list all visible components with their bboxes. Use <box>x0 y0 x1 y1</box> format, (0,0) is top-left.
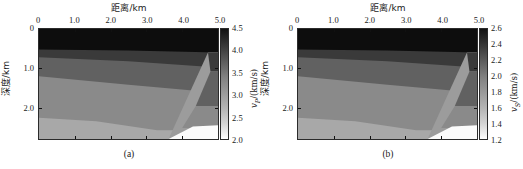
tick-top-b-1 <box>334 29 335 32</box>
tick-top-b-3 <box>405 29 406 32</box>
tick-left-a-2 <box>39 108 42 109</box>
tick-right-a-1 <box>215 68 218 69</box>
cbar-tick-a-4: 4.0 <box>232 45 243 55</box>
x-tick-b-4: 4.0 <box>437 15 448 26</box>
tick-bot-a-4 <box>182 136 183 139</box>
cbar-tick-a-3: 3.5 <box>232 68 243 78</box>
x-tick-labels-a: 0 1.0 2.0 3.0 4.0 5.0 <box>38 15 220 26</box>
cbar-tick-a-1: 2.5 <box>232 113 243 123</box>
colorbar-b <box>479 28 488 140</box>
tick-bot-a-2 <box>111 136 112 139</box>
cbar-symbol-b: v <box>509 107 519 112</box>
x-tick-a-2: 2.0 <box>105 15 116 26</box>
tick-top-b-4 <box>441 29 442 32</box>
y-tick-b-0: 0 <box>289 23 293 33</box>
x-tick-b-1: 1.0 <box>328 15 339 26</box>
cbar-units-a: /(km/s) <box>249 69 259 99</box>
x-tick-a-4: 4.0 <box>178 15 189 26</box>
x-tick-b-3: 3.0 <box>401 15 412 26</box>
cbar-tick-b-1: 1.4 <box>491 119 502 129</box>
vs-model-image <box>298 29 477 139</box>
y-tick-a-1: 1.0 <box>23 63 34 73</box>
tick-top-b-2 <box>370 29 371 32</box>
cbar-subscript-b: S <box>514 103 522 107</box>
x-tick-a-3: 3.0 <box>142 15 153 26</box>
cbar-tick-b-0: 1.2 <box>491 135 502 145</box>
tick-top-a-2 <box>111 29 112 32</box>
x-tick-a-5: 5.0 <box>215 15 226 26</box>
x-tick-a-1: 1.0 <box>69 15 80 26</box>
x-axis-title-a: 距离/km <box>38 3 220 14</box>
tick-bot-b-2 <box>370 136 371 139</box>
y-tick-labels-b: 0 1.0 2.0 <box>273 28 295 140</box>
cbar-tick-b-3: 1.8 <box>491 87 502 97</box>
y-tick-b-2: 2.0 <box>282 103 293 113</box>
cbar-tick-a-5: 4.5 <box>232 23 243 33</box>
tick-bot-a-3 <box>146 136 147 139</box>
cbar-tick-a-2: 3.0 <box>232 90 243 100</box>
cbar-symbol-a: v <box>249 103 259 108</box>
tick-top-a-4 <box>182 29 183 32</box>
tick-left-a-1 <box>39 68 42 69</box>
panel-a: 距离/km 0 1.0 2.0 3.0 4.0 5.0 深度/km 0 1.0 … <box>0 0 258 169</box>
tick-bot-b-3 <box>405 136 406 139</box>
y-tick-labels-a: 0 1.0 2.0 <box>14 28 36 140</box>
velocity-model-plot-a <box>38 28 219 140</box>
x-tick-b-2: 2.0 <box>364 15 375 26</box>
y-axis-title-b: 深度/km <box>260 61 270 96</box>
sub-caption-a: (a) <box>0 148 258 160</box>
cbar-units-b: /(km/s) <box>509 73 519 103</box>
panel-b: 距离/km 0 1.0 2.0 3.0 4.0 5.0 深度/km 0 1.0 … <box>259 0 517 169</box>
cbar-tick-b-4: 2.0 <box>491 71 502 81</box>
y-tick-a-0: 0 <box>30 23 34 33</box>
y-axis-title-a: 深度/km <box>1 61 11 96</box>
cbar-tick-b-7: 2.6 <box>491 23 502 33</box>
vp-model-image <box>39 29 218 139</box>
cbar-tick-a-0: 2.0 <box>232 135 243 145</box>
y-tick-a-2: 2.0 <box>23 103 34 113</box>
cbar-tick-b-2: 1.6 <box>491 103 502 113</box>
x-axis-title-b: 距离/km <box>297 3 479 14</box>
sub-caption-b: (b) <box>259 148 517 160</box>
x-tick-b-5: 5.0 <box>474 15 485 26</box>
y-tick-b-1: 1.0 <box>282 63 293 73</box>
tick-left-b-1 <box>298 68 301 69</box>
tick-right-a-2 <box>215 108 218 109</box>
cbar-tick-b-5: 2.2 <box>491 55 502 65</box>
x-tick-labels-b: 0 1.0 2.0 3.0 4.0 5.0 <box>297 15 479 26</box>
tick-right-b-2 <box>474 108 477 109</box>
velocity-model-plot-b <box>297 28 478 140</box>
tick-top-a-1 <box>75 29 76 32</box>
tick-right-b-1 <box>474 68 477 69</box>
colorbar-title-b: vS/(km/s) <box>509 73 523 112</box>
tick-left-b-2 <box>298 108 301 109</box>
cbar-tick-b-6: 2.4 <box>491 39 502 49</box>
tick-bot-a-1 <box>75 136 76 139</box>
tick-top-a-3 <box>146 29 147 32</box>
tick-bot-b-1 <box>334 136 335 139</box>
colorbar-a <box>220 28 229 140</box>
tick-bot-b-4 <box>441 136 442 139</box>
